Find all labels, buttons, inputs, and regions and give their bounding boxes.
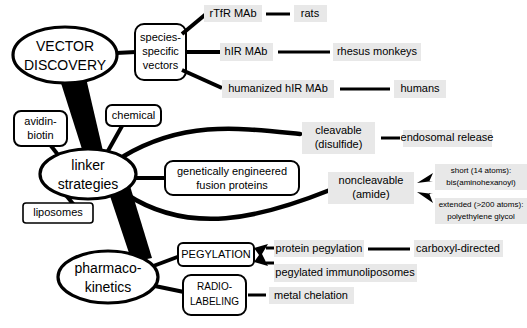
concept-map-diagram: VECTOR DISCOVERY species- specific vecto… [0, 0, 527, 328]
avidin-biotin-label-line2: biotin [27, 129, 53, 141]
link-vector-to-species [116, 52, 136, 53]
endosomal-release-label: endosomal release [401, 131, 494, 143]
radiolabeling-label-line2: LABELING [190, 296, 239, 307]
rtfr-mab-label: rTfR MAb [209, 7, 256, 19]
link-species-to-humanized [182, 70, 222, 88]
hir-mab-label: hIR MAb [225, 45, 268, 57]
species-specific-label-line1: species- [140, 31, 181, 43]
fusion-proteins-label-line2: fusion proteins [196, 179, 268, 191]
vector-discovery-label-line2: DISCOVERY [24, 57, 107, 73]
noncleavable-label-line2: (amide) [352, 188, 389, 200]
short-linker-label-line1: short (14 atoms): [451, 166, 511, 175]
humans-label: humans [400, 82, 440, 94]
avidin-biotin-label-line1: avidin- [24, 115, 57, 127]
pharmacokinetics-label-line1: pharmaco- [75, 260, 142, 276]
humanized-hir-mab-label: humanized hIR MAb [228, 82, 328, 94]
cleavable-label-line2: (disulfide) [315, 138, 363, 150]
rats-label: rats [301, 7, 320, 19]
protein-pegylation-label: protein pegylation [276, 242, 363, 254]
pegylation-label: PEGYLATION [181, 248, 251, 260]
link-species-to-rtfr [182, 14, 206, 34]
carboxyl-directed-label: carboxyl-directed [416, 242, 500, 254]
rhesus-monkeys-label: rhesus monkeys [337, 45, 418, 57]
extended-linker-label-line1: extended (>200 atoms): [439, 200, 524, 209]
species-specific-label-line3: vectors [143, 59, 179, 71]
vector-discovery-label-line1: VECTOR [36, 38, 94, 54]
linker-strategies-label-line1: linker [71, 157, 105, 173]
link-linker-to-cleavable [124, 129, 300, 156]
link-noncleavable-to-short [417, 173, 433, 183]
linker-strategies-label-line2: strategies [58, 176, 119, 192]
radiolabeling-label-line1: RADIO- [197, 281, 232, 292]
species-specific-label-line2: specific [142, 45, 179, 57]
pegylated-immunoliposomes-label: pegylated immunoliposomes [275, 266, 415, 278]
cleavable-label-line1: cleavable [315, 124, 361, 136]
link-pegylation-branch [254, 244, 268, 266]
link-noncleavable-to-extended [417, 192, 433, 203]
liposomes-label: liposomes [33, 206, 83, 218]
pharmacokinetics-label-line2: kinetics [85, 279, 132, 295]
chemical-label: chemical [112, 109, 155, 121]
extended-linker-label-line2: polyethylene glycol [447, 212, 515, 221]
fusion-proteins-label-line1: genetically engineered [177, 165, 287, 177]
vector-discovery-hub[interactable] [13, 27, 117, 83]
metal-chelation-label: metal chelation [274, 289, 348, 301]
noncleavable-label-line1: noncleavable [339, 174, 404, 186]
short-linker-label-line2: bis(aminohexanoyl) [446, 178, 516, 187]
